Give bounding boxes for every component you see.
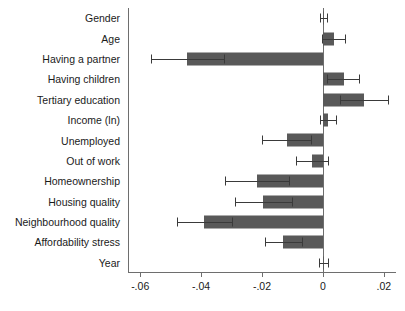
- ci-cap-upper: [289, 177, 290, 186]
- x-axis-tick-label: -.04: [192, 280, 210, 292]
- ci-cap-upper: [311, 136, 312, 145]
- x-axis-tick-label: -.06: [131, 280, 149, 292]
- ci-cap-upper: [359, 75, 360, 84]
- ci-cap-lower: [265, 238, 266, 247]
- confidence-interval-line: [151, 59, 224, 60]
- chart-row: [128, 151, 396, 171]
- y-axis-category-labels: GenderAgeHaving a partnerHaving children…: [0, 8, 124, 273]
- confidence-interval-line: [177, 222, 232, 223]
- ci-cap-upper: [224, 54, 225, 63]
- x-axis-tick-label: 0: [320, 280, 326, 292]
- chart-row: [128, 212, 396, 232]
- ci-cap-lower: [262, 136, 263, 145]
- chart-row: [128, 69, 396, 89]
- y-axis-label: Age: [101, 33, 120, 45]
- ci-cap-upper: [328, 258, 329, 267]
- chart-row: [128, 253, 396, 273]
- ci-cap-upper: [336, 116, 337, 125]
- y-axis-label: Neighbourhood quality: [15, 216, 120, 228]
- confidence-interval-line: [296, 161, 329, 162]
- chart-row: [128, 130, 396, 150]
- ci-cap-lower: [340, 95, 341, 104]
- confidence-interval-line: [320, 120, 335, 121]
- coefficient-plot: GenderAgeHaving a partnerHaving children…: [0, 0, 405, 311]
- ci-cap-lower: [322, 34, 323, 43]
- y-axis-label: Affordability stress: [34, 236, 120, 248]
- confidence-interval-line: [319, 263, 328, 264]
- chart-row: [128, 191, 396, 211]
- chart-row: [128, 171, 396, 191]
- y-axis-label: Homeownership: [44, 175, 120, 187]
- confidence-interval-line: [327, 79, 360, 80]
- ci-cap-lower: [320, 14, 321, 23]
- x-axis-tick: [384, 273, 385, 277]
- y-axis-label: Year: [99, 257, 120, 269]
- chart-row: [128, 8, 396, 28]
- confidence-interval-line: [320, 18, 327, 19]
- x-axis-tick-label: -.02: [253, 280, 271, 292]
- ci-cap-lower: [327, 75, 328, 84]
- y-axis-label: Having children: [48, 73, 120, 85]
- ci-cap-lower: [177, 218, 178, 227]
- chart-row: [128, 28, 396, 48]
- ci-cap-lower: [319, 258, 320, 267]
- y-axis-label: Out of work: [66, 155, 120, 167]
- y-axis-label: Having a partner: [42, 53, 120, 65]
- ci-cap-upper: [292, 197, 293, 206]
- ci-cap-lower: [225, 177, 226, 186]
- plot-area: -.06-.04-.020.02: [128, 8, 396, 273]
- y-axis-label: Unemployed: [61, 135, 120, 147]
- ci-cap-upper: [232, 218, 233, 227]
- x-axis-tick: [262, 273, 263, 277]
- chart-row: [128, 49, 396, 69]
- ci-cap-upper: [388, 95, 389, 104]
- confidence-interval-line: [225, 181, 288, 182]
- ci-cap-upper: [328, 156, 329, 165]
- x-axis-tick: [323, 273, 324, 277]
- confidence-interval-line: [235, 202, 292, 203]
- ci-cap-lower: [235, 197, 236, 206]
- ci-cap-upper: [302, 238, 303, 247]
- ci-cap-lower: [320, 116, 321, 125]
- ci-cap-upper: [345, 34, 346, 43]
- confidence-interval-line: [322, 39, 345, 40]
- y-axis-label: Income (ln): [67, 114, 120, 126]
- y-axis-label: Tertiary education: [37, 94, 120, 106]
- ci-cap-upper: [327, 14, 328, 23]
- confidence-interval-line: [262, 140, 311, 141]
- x-axis-tick: [201, 273, 202, 277]
- confidence-interval-line: [265, 242, 302, 243]
- y-axis-label: Housing quality: [48, 196, 120, 208]
- ci-cap-lower: [151, 54, 152, 63]
- y-axis-label: Gender: [85, 12, 120, 24]
- chart-row: [128, 90, 396, 110]
- confidence-interval-line: [340, 100, 389, 101]
- x-axis-tick: [140, 273, 141, 277]
- x-axis-tick-label: .02: [377, 280, 392, 292]
- chart-row: [128, 110, 396, 130]
- chart-row: [128, 232, 396, 252]
- ci-cap-lower: [296, 156, 297, 165]
